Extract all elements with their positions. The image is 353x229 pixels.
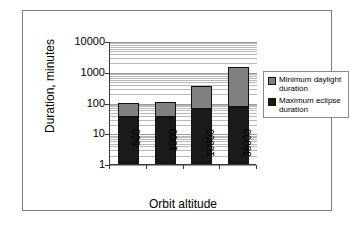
x-axis-tick [109, 165, 110, 169]
x-axis-title: Orbit altitude [83, 197, 283, 211]
y-axis-tick [105, 134, 109, 135]
y-axis-tick [105, 73, 109, 74]
y-axis-labels: 110100100010000 [49, 11, 105, 212]
legend-swatch-eclipse [268, 98, 276, 106]
legend-label-eclipse-line2: duration [279, 105, 308, 114]
chart-legend: Minimum daylight duration Maximum eclips… [263, 71, 349, 118]
y-tick-label: 10000 [74, 36, 105, 46]
y-tick-label: 1 [99, 159, 105, 169]
x-tick-label: 500 [131, 129, 142, 169]
chart-screenshot: Duration, minutes 110100100010000 Orbit … [0, 0, 353, 229]
legend-label-daylight: Minimum daylight duration [279, 75, 341, 93]
chart-frame: Duration, minutes 110100100010000 Orbit … [22, 10, 332, 211]
legend-swatch-daylight [268, 77, 276, 85]
x-axis-tick [219, 165, 220, 169]
x-tick-label: 36000 [242, 129, 253, 169]
x-axis-tick [146, 165, 147, 169]
y-axis-tick [105, 42, 109, 43]
bar-segment-daylight [118, 103, 139, 117]
y-tick-label: 10 [93, 128, 105, 138]
legend-label-daylight-line2: duration [279, 84, 308, 93]
x-axis-tick [183, 165, 184, 169]
legend-item-daylight: Minimum daylight duration [267, 75, 345, 93]
y-tick-label: 100 [87, 98, 105, 108]
legend-label-daylight-line1: Minimum daylight [279, 75, 341, 84]
bar-segment-daylight [228, 67, 249, 107]
bar-segment-daylight [191, 86, 212, 110]
x-axis-tick [256, 165, 257, 169]
x-tick-label: 10000 [205, 129, 216, 169]
x-tick-label: 1000 [168, 129, 179, 169]
legend-label-eclipse-line1: Maximum eclipse [279, 96, 341, 105]
legend-item-eclipse: Maximum eclipse duration [267, 96, 345, 114]
bar-segment-daylight [155, 102, 176, 117]
y-tick-label: 1000 [81, 67, 105, 77]
legend-label-eclipse: Maximum eclipse duration [279, 96, 341, 114]
y-axis-tick [105, 104, 109, 105]
